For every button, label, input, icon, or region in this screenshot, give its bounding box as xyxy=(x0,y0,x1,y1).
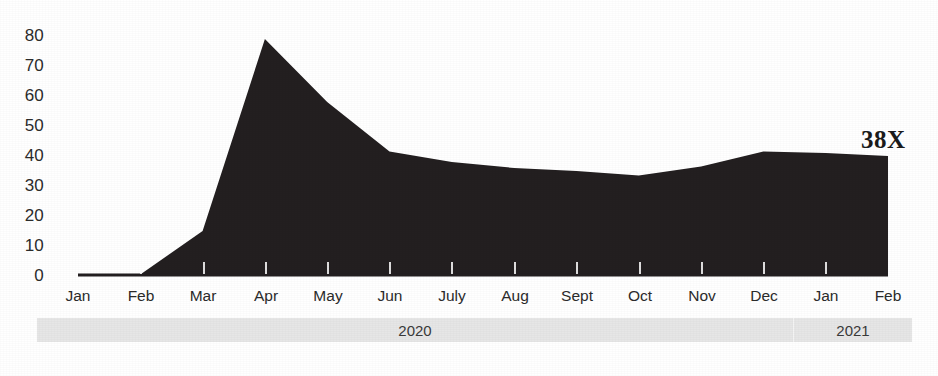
x-axis-tick-sept-2020: Sept xyxy=(547,288,607,304)
x-axis-tick-may-2020: May xyxy=(298,288,358,304)
series-area-growth xyxy=(78,39,888,276)
x-axis-tick-july-2020: July xyxy=(422,288,482,304)
x-axis-tick-feb-2021: Feb xyxy=(858,288,918,304)
x-axis-tick-apr-2020: Apr xyxy=(236,288,296,304)
year-band-label-2020: 2020 xyxy=(37,318,793,342)
x-axis-tick-aug-2020: Aug xyxy=(485,288,545,304)
area-chart: 80 70 60 50 40 30 20 10 0 Jan Feb Mar Ap… xyxy=(0,0,938,376)
x-axis-tick-feb-2020: Feb xyxy=(111,288,171,304)
x-axis-tick-jan-2020: Jan xyxy=(48,288,108,304)
year-band-label-2021: 2021 xyxy=(794,318,912,342)
x-axis-tick-jan-2021: Jan xyxy=(796,288,856,304)
x-axis-tick-nov-2020: Nov xyxy=(672,288,732,304)
x-axis-baseline xyxy=(78,274,888,277)
x-axis-tick-mar-2020: Mar xyxy=(173,288,233,304)
end-value-annotation: 38X xyxy=(861,127,906,152)
x-axis-tick-jun-2020: Jun xyxy=(360,288,420,304)
year-band: 2020 2021 xyxy=(37,318,912,342)
plot-area xyxy=(0,0,938,300)
x-axis-tick-dec-2020: Dec xyxy=(734,288,794,304)
x-axis-tick-oct-2020: Oct xyxy=(610,288,670,304)
